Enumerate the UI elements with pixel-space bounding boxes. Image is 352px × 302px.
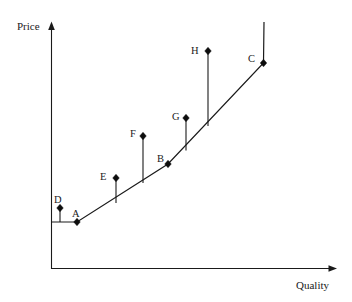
data-point-marker-E[interactable] xyxy=(113,174,120,182)
data-point-marker-F[interactable] xyxy=(140,132,147,140)
data-point-label-F: F xyxy=(130,128,136,139)
x-axis-arrow-icon xyxy=(329,265,338,272)
data-point-markers-group xyxy=(57,47,267,226)
data-point-labels-group: A B C D E F G H xyxy=(54,45,255,219)
data-point-label-B: B xyxy=(157,153,164,164)
data-point-label-D: D xyxy=(54,194,62,205)
data-point-marker-D[interactable] xyxy=(57,204,64,212)
data-point-label-G: G xyxy=(172,111,180,122)
x-axis-title: Quality xyxy=(296,279,329,291)
data-point-label-C: C xyxy=(248,53,255,64)
data-point-marker-G[interactable] xyxy=(183,114,190,122)
chart-canvas: Price Quality A B C xyxy=(0,0,352,302)
data-point-label-A: A xyxy=(72,208,80,219)
axes-group xyxy=(48,22,337,272)
frontier-curve-group xyxy=(52,22,265,222)
price-quality-scatter-chart: Price Quality A B C xyxy=(0,0,352,302)
data-point-label-E: E xyxy=(100,171,106,182)
data-point-marker-H[interactable] xyxy=(205,47,212,55)
frontier-polyline xyxy=(52,22,265,222)
y-axis-title: Price xyxy=(17,20,40,32)
data-point-label-H: H xyxy=(191,45,199,56)
y-axis-arrow-icon xyxy=(48,22,55,31)
data-point-marker-A[interactable] xyxy=(74,218,81,226)
